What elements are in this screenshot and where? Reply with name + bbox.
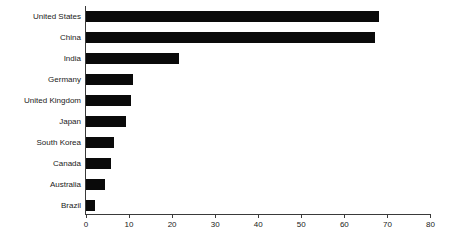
x-tick-label: 60: [329, 220, 359, 229]
x-tick-label: 10: [114, 220, 144, 229]
category-label: Germany: [0, 75, 81, 84]
category-label: South Korea: [0, 138, 81, 147]
x-tick-label: 80: [416, 220, 446, 229]
x-tick-mark: [344, 215, 345, 218]
x-tick-label: 30: [200, 220, 230, 229]
bar-united-kingdom: [86, 95, 131, 106]
x-tick-mark: [86, 215, 87, 218]
x-tick-label: 40: [243, 220, 273, 229]
x-tick-label: 70: [372, 220, 402, 229]
bar-india: [86, 53, 179, 64]
x-tick-label: 20: [157, 220, 187, 229]
category-label: India: [0, 54, 81, 63]
x-tick-mark: [258, 215, 259, 218]
category-label: Japan: [0, 117, 81, 126]
category-label: United Kingdom: [0, 96, 81, 105]
x-tick-mark: [129, 215, 130, 218]
bar-south-korea: [86, 137, 114, 148]
bar-canada: [86, 158, 111, 169]
bar-japan: [86, 116, 126, 127]
x-tick-mark: [301, 215, 302, 218]
category-label: Australia: [0, 180, 81, 189]
category-label: Brazil: [0, 201, 81, 210]
bar-united-states: [86, 11, 379, 22]
x-tick-label: 50: [286, 220, 316, 229]
category-label: United States: [0, 12, 81, 21]
x-tick-mark: [387, 215, 388, 218]
x-tick-mark: [172, 215, 173, 218]
bar-china: [86, 32, 375, 43]
bar-chart-figure: United StatesChinaIndiaGermanyUnited Kin…: [0, 0, 455, 236]
bar-brazil: [86, 200, 95, 211]
bar-australia: [86, 179, 105, 190]
category-label: China: [0, 33, 81, 42]
x-tick-label: 0: [71, 220, 101, 229]
bar-germany: [86, 74, 133, 85]
x-tick-mark: [430, 215, 431, 218]
category-label: Canada: [0, 159, 81, 168]
x-tick-mark: [215, 215, 216, 218]
